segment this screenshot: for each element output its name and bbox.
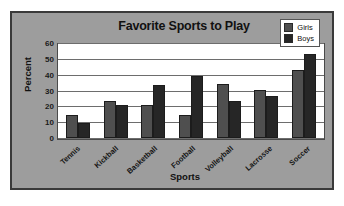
bars-layer <box>59 45 323 138</box>
plot-area: 0102030405060 <box>57 43 325 140</box>
bar-boys-football[interactable] <box>191 76 203 138</box>
x-tick-label-lacrosse: Lacrosse <box>243 144 273 173</box>
bar-group <box>210 45 248 138</box>
legend-swatch-girls <box>284 23 293 32</box>
bar-girls-volleyball[interactable] <box>217 84 229 138</box>
y-tick-label: 10 <box>45 118 54 127</box>
bar-group <box>172 45 210 138</box>
legend-label-girls: Girls <box>297 23 312 32</box>
legend-item-girls: Girls <box>284 22 314 33</box>
plot-wrapper: 0102030405060 <box>57 43 325 140</box>
bar-girls-kickball[interactable] <box>104 101 116 138</box>
bar-group <box>97 45 135 138</box>
bar-boys-basketball[interactable] <box>153 85 165 138</box>
y-tick-label: 0 <box>50 134 54 143</box>
bar-girls-football[interactable] <box>179 115 191 138</box>
bar-boys-soccer[interactable] <box>304 54 316 138</box>
y-tick-label: 40 <box>45 70 54 79</box>
legend-label-boys: Boys <box>297 34 314 43</box>
x-tick-label-kickball: Kickball <box>93 144 120 170</box>
bar-boys-tennis[interactable] <box>78 123 90 139</box>
bar-boys-volleyball[interactable] <box>229 101 241 138</box>
bar-group <box>248 45 286 138</box>
chart-frame: Favorite Sports to Play Girls Boys Perce… <box>10 11 334 190</box>
bar-boys-kickball[interactable] <box>116 105 128 138</box>
chart-legend: Girls Boys <box>280 19 320 47</box>
chart-page: Favorite Sports to Play Girls Boys Perce… <box>0 0 344 206</box>
y-axis-title: Percent <box>22 47 33 103</box>
bar-girls-soccer[interactable] <box>292 70 304 138</box>
x-tick-label-football: Football <box>169 144 197 170</box>
legend-item-boys: Boys <box>284 33 314 44</box>
y-tick-label: 60 <box>45 39 54 48</box>
y-tick-label: 20 <box>45 102 54 111</box>
bar-girls-tennis[interactable] <box>66 115 78 138</box>
bar-girls-lacrosse[interactable] <box>254 90 266 138</box>
x-axis-title: Sports <box>12 171 332 182</box>
bar-group <box>59 45 97 138</box>
y-tick-label: 50 <box>45 54 54 63</box>
gridline: 0 <box>58 138 324 139</box>
bar-group <box>134 45 172 138</box>
bar-girls-basketball[interactable] <box>141 105 153 138</box>
legend-swatch-boys <box>284 34 293 43</box>
bar-boys-lacrosse[interactable] <box>266 96 278 138</box>
bar-group <box>285 45 323 138</box>
y-tick-label: 30 <box>45 86 54 95</box>
x-tick-label-soccer: Soccer <box>287 144 312 167</box>
x-tick-label-tennis: Tennis <box>59 144 83 166</box>
